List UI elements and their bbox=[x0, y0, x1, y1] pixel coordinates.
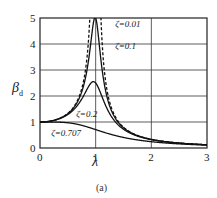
y-tick-label: 3 bbox=[30, 64, 36, 76]
x-tick-label: 0 bbox=[37, 151, 43, 163]
y-tick-label: 4 bbox=[30, 38, 36, 50]
series-annotation: ζ=0.1 bbox=[115, 41, 136, 51]
x-tick-label: 3 bbox=[204, 151, 210, 163]
series-annotation: ζ=0.707 bbox=[51, 128, 81, 138]
y-tick-label: 5 bbox=[30, 12, 36, 24]
y-axis-label: βd bbox=[11, 80, 23, 98]
axis-ticks: 0123012345 bbox=[30, 12, 210, 163]
x-tick-label: 2 bbox=[148, 151, 154, 163]
caption: (a) bbox=[96, 182, 107, 194]
series-annotation: ζ=0.2 bbox=[76, 109, 97, 119]
chart: 0123012345 ζ=0.01ζ=0.1ζ=0.2ζ=0.707 βd λ … bbox=[0, 0, 217, 198]
curve-ζ=0.1 bbox=[40, 17, 207, 144]
series-annotation: ζ=0.01 bbox=[115, 19, 140, 29]
y-tick-label: 1 bbox=[30, 116, 36, 128]
y-tick-label: 2 bbox=[30, 90, 36, 102]
y-tick-label: 0 bbox=[30, 142, 36, 154]
x-axis-label: λ bbox=[91, 154, 98, 169]
